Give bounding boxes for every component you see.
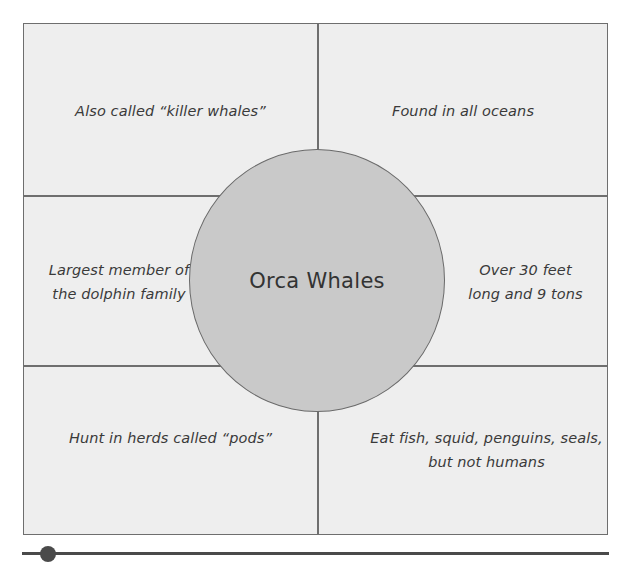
fact-size-line-2: long and 9 tons — [442, 282, 609, 306]
fact-dolphin-family-line-1: Largest member of — [24, 258, 214, 282]
center-circle: Orca Whales — [189, 149, 445, 412]
footer-rule — [22, 552, 609, 555]
fact-all-oceans: Found in all oceans — [392, 103, 534, 119]
fact-size-line-1: Over 30 feet — [442, 258, 609, 282]
fact-diet-line-1: Eat fish, squid, penguins, seals, — [364, 426, 609, 450]
cell-top-right: Found in all oceans — [317, 99, 609, 123]
cell-bottom-right: Eat fish, squid, penguins, seals, but no… — [364, 426, 609, 474]
center-title: Orca Whales — [249, 269, 385, 293]
fact-pods: Hunt in herds called “pods” — [69, 430, 272, 446]
fact-killer-whales: Also called “killer whales” — [75, 103, 266, 119]
cell-middle-left: Largest member of the dolphin family — [24, 258, 214, 306]
cell-middle-right: Over 30 feet long and 9 tons — [442, 258, 609, 306]
footer-tab-marker — [40, 546, 56, 562]
cell-top-left: Also called “killer whales” — [24, 99, 317, 123]
cell-bottom-left: Hunt in herds called “pods” — [24, 426, 317, 450]
fact-diet-line-2: but not humans — [364, 450, 609, 474]
fact-dolphin-family-line-2: the dolphin family — [24, 282, 214, 306]
